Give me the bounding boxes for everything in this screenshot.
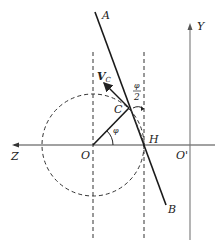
line-AB bbox=[95, 12, 166, 205]
label-H: H bbox=[148, 133, 159, 146]
label-half-phi-denominator: 2 bbox=[133, 92, 140, 102]
z-axis-arrow-icon bbox=[12, 143, 19, 148]
label-C: C bbox=[114, 103, 123, 116]
label-O-prime: O' bbox=[176, 149, 188, 162]
kinematics-diagram: A B C H O O' Z Y VC φ φ 2 bbox=[0, 0, 221, 252]
label-phi: φ bbox=[113, 126, 119, 135]
label-Y: Y bbox=[197, 20, 206, 33]
label-A: A bbox=[101, 9, 110, 22]
y-axis-arrow-icon bbox=[188, 23, 193, 30]
label-O: O bbox=[81, 149, 90, 162]
segment-OC bbox=[93, 108, 129, 145]
label-Z: Z bbox=[10, 150, 19, 163]
label-half-phi-numerator: φ bbox=[134, 81, 140, 90]
label-B: B bbox=[167, 203, 176, 216]
label-velocity: VC bbox=[97, 70, 112, 84]
